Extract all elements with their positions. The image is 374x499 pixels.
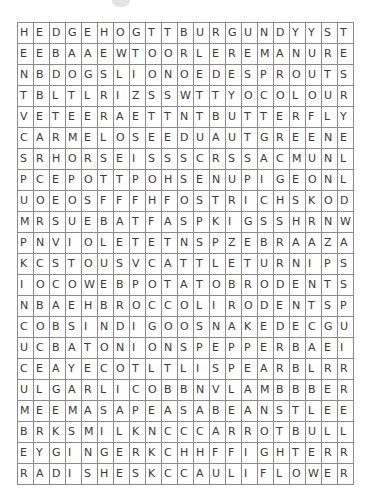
grid-cell[interactable]: G xyxy=(146,317,162,338)
grid-cell[interactable]: G xyxy=(130,23,146,44)
grid-cell[interactable]: U xyxy=(306,44,322,65)
grid-cell[interactable]: T xyxy=(338,23,354,44)
grid-cell[interactable]: Y xyxy=(226,86,242,107)
grid-cell[interactable]: T xyxy=(162,233,178,254)
grid-cell[interactable]: G xyxy=(50,380,66,401)
grid-cell[interactable]: C xyxy=(50,275,66,296)
grid-cell[interactable]: P xyxy=(242,338,258,359)
grid-cell[interactable]: T xyxy=(162,107,178,128)
grid-cell[interactable]: B xyxy=(178,380,194,401)
grid-cell[interactable]: O xyxy=(146,65,162,86)
grid-cell[interactable]: N xyxy=(18,296,34,317)
grid-cell[interactable]: O xyxy=(178,317,194,338)
grid-cell[interactable]: P xyxy=(226,359,242,380)
grid-cell[interactable]: E xyxy=(82,359,98,380)
grid-cell[interactable]: D xyxy=(210,65,226,86)
grid-cell[interactable]: R xyxy=(226,191,242,212)
grid-cell[interactable]: E xyxy=(290,275,306,296)
grid-cell[interactable]: U xyxy=(194,128,210,149)
grid-cell[interactable]: R xyxy=(242,275,258,296)
grid-cell[interactable]: S xyxy=(98,65,114,86)
grid-cell[interactable]: E xyxy=(50,401,66,422)
grid-cell[interactable]: S xyxy=(242,65,258,86)
grid-cell[interactable]: E xyxy=(338,128,354,149)
grid-cell[interactable]: I xyxy=(258,170,274,191)
grid-cell[interactable]: K xyxy=(242,317,258,338)
grid-cell[interactable]: T xyxy=(194,86,210,107)
grid-cell[interactable]: B xyxy=(98,212,114,233)
grid-cell[interactable]: H xyxy=(178,443,194,464)
grid-cell[interactable]: U xyxy=(18,338,34,359)
grid-cell[interactable]: T xyxy=(66,254,82,275)
grid-cell[interactable]: S xyxy=(162,149,178,170)
grid-cell[interactable]: K xyxy=(146,464,162,485)
grid-cell[interactable]: U xyxy=(306,422,322,443)
grid-cell[interactable]: R xyxy=(34,212,50,233)
grid-cell[interactable]: U xyxy=(242,23,258,44)
grid-cell[interactable]: P xyxy=(338,296,354,317)
grid-cell[interactable]: B xyxy=(226,275,242,296)
grid-cell[interactable]: C xyxy=(34,338,50,359)
grid-cell[interactable]: A xyxy=(50,296,66,317)
grid-cell[interactable]: A xyxy=(274,44,290,65)
grid-cell[interactable]: T xyxy=(18,86,34,107)
grid-cell[interactable]: E xyxy=(98,275,114,296)
grid-cell[interactable]: N xyxy=(146,422,162,443)
grid-cell[interactable]: P xyxy=(130,275,146,296)
grid-cell[interactable]: S xyxy=(194,317,210,338)
grid-cell[interactable]: L xyxy=(338,149,354,170)
grid-cell[interactable]: F xyxy=(226,443,242,464)
grid-cell[interactable]: F xyxy=(114,191,130,212)
grid-cell[interactable]: O xyxy=(162,44,178,65)
grid-cell[interactable]: E xyxy=(290,170,306,191)
grid-cell[interactable]: V xyxy=(130,254,146,275)
grid-cell[interactable]: B xyxy=(34,86,50,107)
grid-cell[interactable]: M xyxy=(82,422,98,443)
grid-cell[interactable]: O xyxy=(146,338,162,359)
grid-cell[interactable]: C xyxy=(258,86,274,107)
grid-cell[interactable]: B xyxy=(210,107,226,128)
grid-cell[interactable]: D xyxy=(274,23,290,44)
grid-cell[interactable]: I xyxy=(242,191,258,212)
grid-cell[interactable]: O xyxy=(146,380,162,401)
grid-cell[interactable]: A xyxy=(162,401,178,422)
grid-cell[interactable]: O xyxy=(306,170,322,191)
grid-cell[interactable]: O xyxy=(82,170,98,191)
grid-cell[interactable]: H xyxy=(98,23,114,44)
grid-cell[interactable]: S xyxy=(98,401,114,422)
grid-cell[interactable]: G xyxy=(258,128,274,149)
grid-cell[interactable]: S xyxy=(98,149,114,170)
grid-cell[interactable]: T xyxy=(130,359,146,380)
grid-cell[interactable]: C xyxy=(162,422,178,443)
grid-cell[interactable]: U xyxy=(258,254,274,275)
grid-cell[interactable]: C xyxy=(146,296,162,317)
grid-cell[interactable]: T xyxy=(210,86,226,107)
grid-cell[interactable]: U xyxy=(226,170,242,191)
grid-cell[interactable]: W xyxy=(306,464,322,485)
grid-cell[interactable]: S xyxy=(82,191,98,212)
grid-cell[interactable]: R xyxy=(226,44,242,65)
grid-cell[interactable]: S xyxy=(146,149,162,170)
grid-cell[interactable]: O xyxy=(130,296,146,317)
grid-cell[interactable]: U xyxy=(18,380,34,401)
grid-cell[interactable]: L xyxy=(338,170,354,191)
grid-cell[interactable]: C xyxy=(194,149,210,170)
grid-cell[interactable]: E xyxy=(338,401,354,422)
grid-cell[interactable]: N xyxy=(290,254,306,275)
grid-cell[interactable]: O xyxy=(290,65,306,86)
grid-cell[interactable]: R xyxy=(274,338,290,359)
grid-cell[interactable]: E xyxy=(226,401,242,422)
grid-cell[interactable]: N xyxy=(322,212,338,233)
grid-cell[interactable]: W xyxy=(82,275,98,296)
grid-cell[interactable]: C xyxy=(274,149,290,170)
grid-cell[interactable]: F xyxy=(306,107,322,128)
grid-cell[interactable]: R xyxy=(338,86,354,107)
grid-cell[interactable]: R xyxy=(338,464,354,485)
grid-cell[interactable]: C xyxy=(306,317,322,338)
grid-cell[interactable]: E xyxy=(82,107,98,128)
grid-cell[interactable]: I xyxy=(194,359,210,380)
grid-cell[interactable]: T xyxy=(290,401,306,422)
grid-cell[interactable]: G xyxy=(82,65,98,86)
grid-cell[interactable]: N xyxy=(258,401,274,422)
grid-cell[interactable]: Y xyxy=(290,23,306,44)
